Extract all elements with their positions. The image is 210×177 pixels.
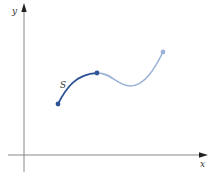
curve-continuation (97, 52, 163, 86)
start-point (56, 102, 61, 107)
y-axis-arrow-icon (21, 3, 26, 12)
x-axis-arrow-icon (199, 152, 208, 157)
y-axis-label: y (11, 6, 18, 16)
segment-label: S (60, 80, 66, 90)
x-axis-label: x (200, 159, 205, 169)
junction-point (95, 71, 100, 76)
end-point (161, 50, 166, 55)
diagram-canvas: y x S (0, 0, 210, 177)
